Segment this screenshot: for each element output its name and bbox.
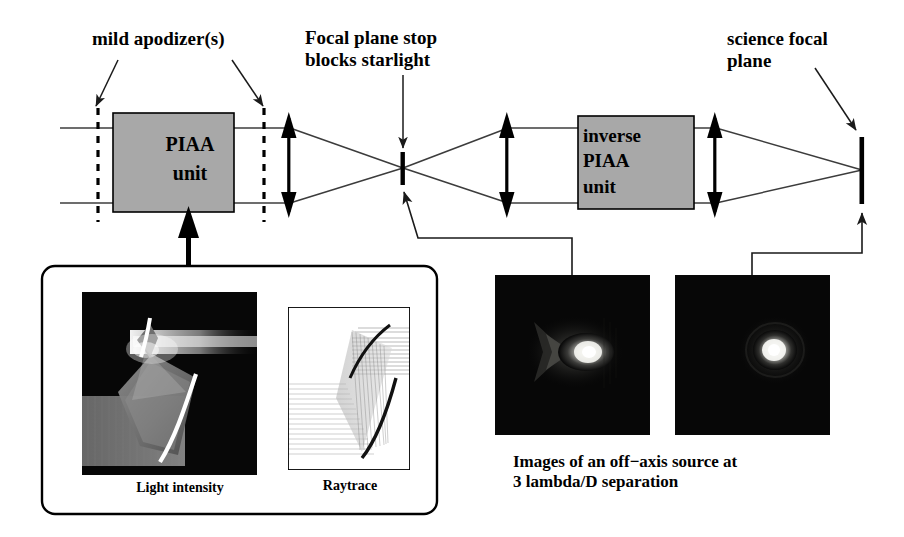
label-mild-apodizer: mild apodizer(s) <box>92 28 224 50</box>
beam-ray-diverge-bottom <box>403 168 508 203</box>
inset-to-piaa-arrow <box>178 206 199 268</box>
leader-science-focal-plane <box>815 68 856 130</box>
connector-psf2-to-science-plane <box>752 213 862 275</box>
connector-psf1-to-stop <box>404 192 572 275</box>
label-raytrace: Raytrace <box>290 478 410 494</box>
diagram-canvas: mild apodizer(s) Focal plane stop blocks… <box>0 0 904 537</box>
optical-diagram-svg <box>0 0 904 537</box>
beam-ray-converge-top <box>290 128 403 168</box>
focal-plane-stop-bar <box>401 152 405 185</box>
beam-ray-final-bottom <box>716 170 862 203</box>
label-science-focal-plane: science focal plane <box>727 28 828 73</box>
psf-image-focal-plane-stop <box>495 275 650 435</box>
connector-psf1-path <box>404 192 572 275</box>
light-intensity-image <box>82 292 257 475</box>
science-focal-plane-bar <box>860 137 865 204</box>
beam-ray-final-top <box>716 128 862 170</box>
psf-image-science-focal-plane <box>675 275 830 435</box>
label-psf-caption: Images of an off−axis source at 3 lambda… <box>513 452 737 492</box>
label-piaa-unit: PIAA unit <box>113 130 267 188</box>
connector-psf2-path <box>752 213 862 275</box>
leader-apodizer-right <box>232 60 263 106</box>
beam-ray-diverge-top <box>403 128 508 168</box>
label-light-intensity: Light intensity <box>105 480 255 496</box>
beam-ray-converge-bottom <box>290 168 403 203</box>
leader-apodizer-left <box>96 60 118 106</box>
label-focal-plane-stop: Focal plane stop blocks starlight <box>305 27 437 72</box>
raytrace-image <box>288 307 410 470</box>
label-inverse-piaa-unit: inverse PIAA unit <box>583 123 693 199</box>
